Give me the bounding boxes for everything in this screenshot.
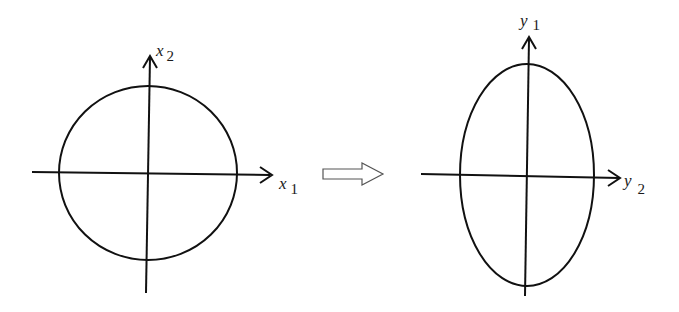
y2-axis-label: y2	[622, 171, 645, 197]
x1-axis	[32, 172, 270, 175]
left-diagram: x2 x1	[32, 41, 298, 293]
x2-axis-label: x2	[155, 41, 174, 64]
x2-axis	[146, 57, 150, 293]
y1-axis-label: y1	[518, 11, 540, 33]
right-diagram: y1 y2	[421, 11, 645, 296]
x1-axis-label: x1	[278, 174, 298, 197]
y2-axis	[421, 174, 619, 178]
y1-axis	[525, 38, 529, 296]
transform-arrow	[323, 163, 383, 185]
hollow-right-arrow-icon	[323, 163, 383, 185]
diagram-canvas: x2 x1 y1 y2	[0, 0, 679, 312]
